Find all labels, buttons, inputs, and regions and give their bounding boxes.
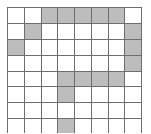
grid-cell-filled xyxy=(75,71,92,87)
grid-row xyxy=(8,23,142,39)
grid-cell-empty xyxy=(58,55,75,71)
grid-cell-empty xyxy=(75,119,92,133)
grid-cell-empty xyxy=(75,87,92,103)
grid-cell-empty xyxy=(75,103,92,119)
grid-cell-filled xyxy=(58,71,75,87)
grid-cell-filled xyxy=(108,8,125,24)
grid-cell-empty xyxy=(24,71,41,87)
grid-cell-empty xyxy=(108,23,125,39)
grid-cell-empty xyxy=(41,55,58,71)
grid-cell-empty xyxy=(24,8,41,24)
grid-cell-empty xyxy=(75,39,92,55)
grid-cell-empty xyxy=(75,23,92,39)
grid-cell-empty xyxy=(108,87,125,103)
grid-cell-filled xyxy=(125,39,142,55)
grid-cell-empty xyxy=(75,55,92,71)
grid-cell-empty xyxy=(91,119,108,133)
grid-cell-filled xyxy=(75,8,92,24)
grid-cell-empty xyxy=(125,8,142,24)
grid-cell-empty xyxy=(24,55,41,71)
grid-cell-empty xyxy=(41,39,58,55)
grid-cell-filled xyxy=(41,8,58,24)
grid-cell-filled xyxy=(58,119,75,133)
grid-cell-empty xyxy=(8,119,25,133)
grid-cell-empty xyxy=(41,103,58,119)
grid-cell-filled xyxy=(24,23,41,39)
grid-cell-empty xyxy=(58,23,75,39)
figure-canvas xyxy=(0,0,151,133)
grid-cell-empty xyxy=(58,39,75,55)
grid-cell-filled xyxy=(8,39,25,55)
grid-row xyxy=(8,119,142,133)
grid-cell-empty xyxy=(125,71,142,87)
grid-cell-empty xyxy=(24,87,41,103)
grid-row xyxy=(8,55,142,71)
grid-cell-filled xyxy=(58,87,75,103)
grid-row xyxy=(8,103,142,119)
grid-cell-empty xyxy=(91,23,108,39)
grid-cell-empty xyxy=(91,55,108,71)
grid-cell-filled xyxy=(125,55,142,71)
grid-cell-empty xyxy=(24,119,41,133)
grid-cell-empty xyxy=(41,119,58,133)
grid-cell-empty xyxy=(41,71,58,87)
grid-body xyxy=(8,8,142,134)
grid-cell-empty xyxy=(58,103,75,119)
grid-cell-empty xyxy=(24,103,41,119)
grid-row xyxy=(8,71,142,87)
grid-cell-empty xyxy=(8,71,25,87)
grid-cell-empty xyxy=(8,23,25,39)
grid-cell-empty xyxy=(108,119,125,133)
grid-row xyxy=(8,39,142,55)
cell-grid xyxy=(7,7,142,133)
grid-cell-empty xyxy=(8,55,25,71)
grid-cell-empty xyxy=(108,103,125,119)
grid-container xyxy=(7,7,133,126)
grid-cell-empty xyxy=(41,87,58,103)
grid-cell-empty xyxy=(108,39,125,55)
grid-cell-empty xyxy=(91,103,108,119)
grid-cell-empty xyxy=(91,87,108,103)
grid-row xyxy=(8,87,142,103)
grid-cell-filled xyxy=(125,23,142,39)
grid-cell-empty xyxy=(8,103,25,119)
grid-cell-empty xyxy=(8,87,25,103)
grid-cell-empty xyxy=(91,39,108,55)
grid-cell-empty xyxy=(125,87,142,103)
grid-row xyxy=(8,8,142,24)
grid-cell-filled xyxy=(91,71,108,87)
grid-cell-filled xyxy=(91,8,108,24)
grid-cell-filled xyxy=(108,71,125,87)
grid-cell-empty xyxy=(108,55,125,71)
grid-cell-empty xyxy=(125,119,142,133)
grid-cell-empty xyxy=(24,39,41,55)
grid-cell-filled xyxy=(58,8,75,24)
grid-cell-empty xyxy=(125,103,142,119)
grid-cell-empty xyxy=(8,8,25,24)
grid-cell-empty xyxy=(41,23,58,39)
